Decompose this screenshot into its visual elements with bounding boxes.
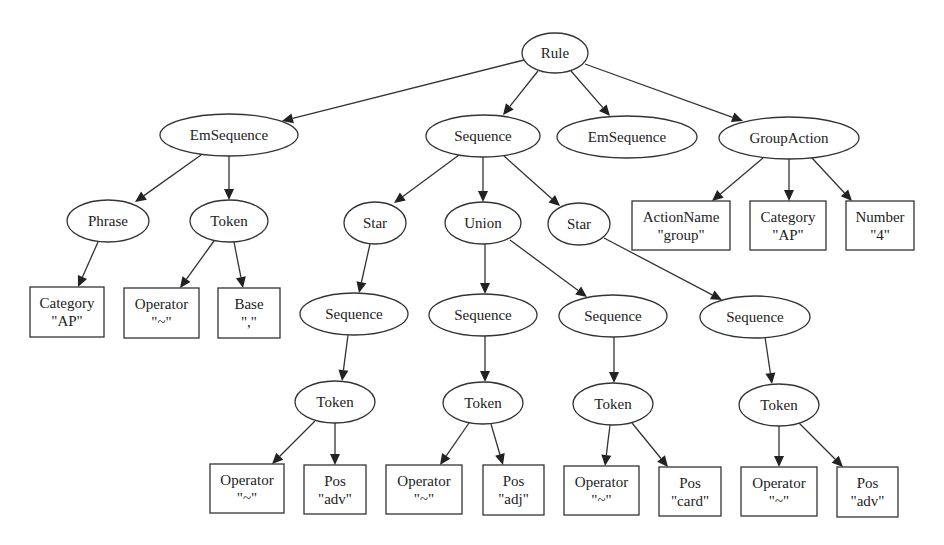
node-label: Operator xyxy=(397,473,450,489)
node-pos_2: Pos"adj" xyxy=(483,465,544,515)
edge-line xyxy=(280,421,315,456)
arrowhead-icon xyxy=(440,453,450,465)
arrowhead-icon xyxy=(495,453,505,465)
node-operator_3: Operator"~" xyxy=(564,466,639,515)
edge-union-to-seq_u1 xyxy=(480,244,490,294)
node-label: Pos xyxy=(503,473,525,489)
edge-line xyxy=(720,158,763,194)
node-token_2: Token xyxy=(443,382,523,424)
edge-emseq1-to-phrase xyxy=(135,155,201,202)
node-seq_s1: Sequence xyxy=(300,293,408,335)
node-label: Token xyxy=(760,397,798,413)
node-seq_s2: Sequence xyxy=(700,296,810,338)
node-seq_u2: Sequence xyxy=(559,295,667,337)
node-token_1: Token xyxy=(295,381,375,423)
edge-star1-to-seq_s1 xyxy=(357,244,370,293)
edge-line xyxy=(403,155,459,196)
edge-line xyxy=(632,423,661,458)
node-label: Sequence xyxy=(726,309,784,325)
edge-token_2-to-pos_2 xyxy=(491,424,505,465)
edge-seq_s2-to-token_4 xyxy=(765,337,775,384)
edge-line xyxy=(82,242,98,277)
arrowhead-icon xyxy=(765,372,775,384)
edge-seq_main-to-star1 xyxy=(394,155,459,203)
edge-line xyxy=(361,244,370,282)
edge-line xyxy=(510,240,578,290)
edge-seq_s1-to-token_1 xyxy=(338,335,348,381)
arrowhead-icon xyxy=(609,372,619,383)
arrowhead-icon xyxy=(480,283,490,294)
node-label: ActionName xyxy=(643,209,720,225)
arrowhead-icon xyxy=(731,113,743,122)
edge-union-to-seq_u2 xyxy=(510,240,587,297)
edge-line xyxy=(491,424,500,454)
arrowhead-icon xyxy=(394,192,406,203)
node-value: "adv" xyxy=(851,493,885,509)
node-value: "~" xyxy=(591,492,611,508)
node-star2: Star xyxy=(548,203,610,245)
edge-line xyxy=(343,335,348,370)
edge-line xyxy=(293,60,524,118)
node-label: Operator xyxy=(220,472,273,488)
node-label: Token xyxy=(594,396,632,412)
node-value: "4" xyxy=(870,227,890,243)
arrowhead-icon xyxy=(601,454,611,466)
edge-line xyxy=(812,158,845,193)
node-groupaction: GroupAction xyxy=(719,117,859,159)
node-label: Sequence xyxy=(584,308,642,324)
node-label: Number xyxy=(855,209,904,225)
edge-seq_main-to-union xyxy=(478,157,488,202)
node-pos_1: Pos"adv" xyxy=(304,465,366,514)
node-label: Pos xyxy=(857,475,879,491)
node-label: Category xyxy=(761,209,816,225)
edge-rule-to-emseq2 xyxy=(571,71,610,116)
node-label: Sequence xyxy=(454,307,512,323)
arrowhead-icon xyxy=(480,371,490,382)
node-token_4: Token xyxy=(739,384,819,426)
node-value: "~" xyxy=(769,493,789,509)
node-seq_u1: Sequence xyxy=(429,294,537,336)
arrowhead-icon xyxy=(478,191,488,202)
node-value: "adv" xyxy=(318,491,352,507)
arrowhead-icon xyxy=(357,281,367,293)
arrowhead-icon xyxy=(338,369,348,381)
node-emseq1: EmSequence xyxy=(160,114,298,156)
edge-token_1-to-operator_1 xyxy=(272,421,315,464)
node-value: "card" xyxy=(671,493,709,509)
node-number: Number"4" xyxy=(846,201,914,250)
edge-line xyxy=(446,423,469,456)
node-label: Base xyxy=(234,296,264,312)
node-rule: Rule xyxy=(522,33,588,73)
node-token_3: Token xyxy=(573,383,653,425)
node-label: Star xyxy=(567,216,591,232)
node-label: EmSequence xyxy=(588,129,667,145)
edge-groupaction-to-actionname xyxy=(712,158,763,201)
node-label: Sequence xyxy=(454,128,512,144)
node-base: Base"," xyxy=(218,288,280,338)
parse-tree-diagram: RuleEmSequenceSequenceEmSequenceGroupAct… xyxy=(0,0,944,545)
node-category_p: Category"AP" xyxy=(30,287,104,337)
node-label: Pos xyxy=(324,473,346,489)
node-operator_2: Operator"~" xyxy=(386,465,462,514)
node-value: "~" xyxy=(414,491,434,507)
node-operator_4: Operator"~" xyxy=(741,467,817,516)
arrowhead-icon xyxy=(236,276,246,288)
node-label: Pos xyxy=(679,475,701,491)
edge-token_1-to-pos_1 xyxy=(330,423,340,465)
arrowhead-icon xyxy=(135,192,147,202)
edge-seq_u1-to-token_2 xyxy=(480,336,490,382)
arrowhead-icon xyxy=(712,190,724,201)
arrowhead-icon xyxy=(575,286,587,297)
edge-token_a-to-operator_a xyxy=(180,241,214,288)
node-label: Rule xyxy=(541,45,570,61)
edge-groupaction-to-category_ga xyxy=(784,159,794,201)
node-value: "AP" xyxy=(51,313,82,329)
node-emseq2: EmSequence xyxy=(557,116,697,158)
edge-line xyxy=(510,71,538,106)
node-phrase: Phrase xyxy=(67,200,149,242)
node-operator_a: Operator"~" xyxy=(124,288,199,338)
node-union: Union xyxy=(445,202,521,244)
node-value: "~" xyxy=(151,314,171,330)
nodes-layer: RuleEmSequenceSequenceEmSequenceGroupAct… xyxy=(30,33,914,517)
node-category_ga: Category"AP" xyxy=(750,201,826,250)
